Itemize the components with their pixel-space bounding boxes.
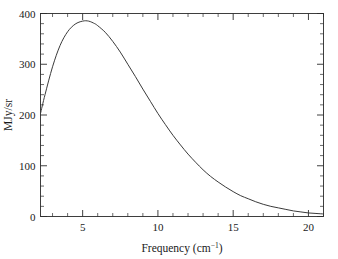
x-tick-label: 20 xyxy=(303,221,315,233)
chart-figure: 0100200300400 5101520 Frequency (cm−1) M… xyxy=(0,0,338,259)
y-tick-label: 400 xyxy=(19,8,36,20)
y-tick-label: 100 xyxy=(19,160,36,172)
x-tick-label: 15 xyxy=(228,221,240,233)
y-tick-label: 0 xyxy=(30,211,36,223)
y-tick-label: 200 xyxy=(19,109,36,121)
y-axis-title: MJy/sr xyxy=(2,99,15,131)
x-tick-label: 10 xyxy=(152,221,164,233)
x-tick-label: 5 xyxy=(80,221,86,233)
x-axis-title: Frequency (cm−1) xyxy=(141,241,222,255)
y-tick-label: 300 xyxy=(19,58,36,70)
blackbody-spectrum-chart: 0100200300400 5101520 Frequency (cm−1) M… xyxy=(0,0,338,259)
